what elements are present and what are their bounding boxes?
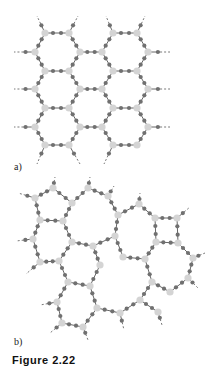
bridge-atom [109,200,113,204]
node-atom [68,238,75,245]
bridge-atom [154,232,158,236]
bridge-atom [147,251,151,255]
terminal-atom [158,316,162,320]
bridge-atom [114,227,118,231]
bridge-atom [169,241,173,245]
node-atom [59,217,66,224]
node-atom [96,261,103,268]
node-atom [148,278,155,285]
bridge-atom [188,269,192,273]
bridge-atom [35,203,39,207]
terminal-bond-dashed [160,319,162,325]
terminal-atom [23,238,27,242]
bridge-atom [36,252,40,256]
bridge-atom [96,257,100,261]
node-atom [93,304,100,311]
node-atom [136,296,143,303]
bridge-atom [64,226,68,230]
bond [53,188,72,203]
bridge-atom [116,241,120,245]
terminal-bond-dashed [194,284,199,289]
bridge-atom [67,233,71,237]
bridge-atom [98,241,102,245]
bond [155,218,156,242]
bridge-atom [64,196,68,200]
bridge-atom [53,219,57,223]
bridge-atom [91,277,95,281]
bridge-atom [62,287,66,291]
bridge-atom [74,324,78,328]
node-atom [55,257,62,264]
bridge-atom [142,207,146,211]
panel-b-label: b) [14,336,22,347]
bridge-atom [168,216,172,220]
bridge-atom [73,281,77,285]
bridge-atom [189,263,193,267]
terminal-bond-dashed [122,322,124,330]
bridge-atom [95,270,99,274]
node-atom [58,319,65,326]
node-atom [79,323,86,330]
bridge-atoms [23,181,200,335]
bridge-atom [118,248,122,252]
node-atom [36,258,43,265]
bridge-atom [81,191,85,195]
bridge-atom [156,283,160,287]
bridge-atom [148,272,152,276]
bridge-atom [90,312,94,316]
bridge-atom [36,224,40,228]
node-atom [89,242,96,249]
bridge-atom [110,309,114,313]
bridge-atom [150,246,154,250]
bridge-atom [57,307,61,311]
node-atom [53,298,60,305]
bridge-atom [67,207,71,211]
bridge-atom [160,216,164,220]
bridge-atom [61,253,65,257]
bridge-atom [128,256,132,260]
terminal-bond-dashed [26,269,32,274]
node-atom [36,216,43,223]
bridge-atom [36,211,40,215]
node-atom [68,199,75,206]
bridge-atom [60,266,64,270]
bridge-atom [115,220,119,224]
bridge-atom [51,259,55,263]
terminal-bond-dashed [50,329,55,334]
bridge-atom [142,292,146,296]
bridge-atom [161,240,165,244]
terminal-atom [55,325,59,329]
bridge-atom [123,209,127,213]
bond [145,259,152,282]
bridge-atom [63,273,67,277]
bridge-atom [67,322,71,326]
bridge-atom [99,191,103,195]
bond [177,218,178,243]
terminal-bond-dashed [184,207,190,212]
bridge-atom [162,287,166,291]
bond [33,239,40,262]
bridge-atom [153,224,157,228]
bridge-atom [64,213,68,217]
node-atom [154,308,161,315]
terminal-atom [190,280,194,284]
terminal-atom [47,301,51,305]
node-atom [49,184,56,191]
bridge-atom [180,281,184,285]
bridge-atom [113,207,117,211]
bridge-atom [84,243,88,247]
bridge-atom [75,196,79,200]
bridge-atom [33,231,37,235]
bridge-atom [81,283,85,287]
bridge-atom [33,245,37,249]
node-atom [116,309,123,316]
bridge-atom [46,218,50,222]
bridge-atom [90,291,94,295]
bridge-atom [150,306,154,310]
terminal-bond-dashed [86,334,88,340]
bridge-atom [77,241,81,245]
bridge-atom [86,319,90,323]
figure-caption: Figure 2.22 [12,354,76,366]
bridge-atom [125,307,129,311]
